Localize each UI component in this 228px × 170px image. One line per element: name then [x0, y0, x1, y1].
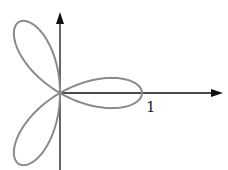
- rose-diagram: [0, 0, 228, 170]
- tick-label-one: 1: [146, 98, 156, 116]
- x-axis-arrow-icon: [211, 89, 223, 97]
- y-axis-arrow-icon: [56, 12, 64, 24]
